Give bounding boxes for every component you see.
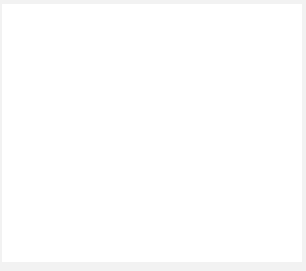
figure-panel (2, 4, 302, 262)
